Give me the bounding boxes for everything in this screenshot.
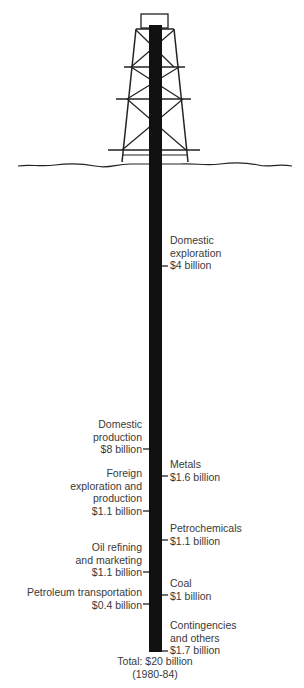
label-domestic-exploration: Domestic exploration $4 billion <box>170 234 221 272</box>
label-coal: Coal $1 billion <box>170 577 211 602</box>
label-petrochemicals: Petrochemicals $1.1 billion <box>170 522 242 547</box>
label-petroleum-transportation: Petroleum transportation $0.4 billion <box>27 586 142 611</box>
label-oil-refining: Oil refining and marketing $1.1 billion <box>75 541 142 579</box>
label-foreign-exploration: Foreign exploration and production $1.1 … <box>70 467 142 517</box>
label-domestic-production: Domestic production $8 billion <box>93 418 142 456</box>
total-label: Total: $20 billion (1980-84) <box>80 655 230 680</box>
label-metals: Metals $1.6 billion <box>170 458 220 483</box>
label-contingencies: Contingencies and others $1.7 billion <box>170 619 237 657</box>
drill-pipe <box>149 25 162 652</box>
oil-rig-illustration <box>0 0 304 688</box>
